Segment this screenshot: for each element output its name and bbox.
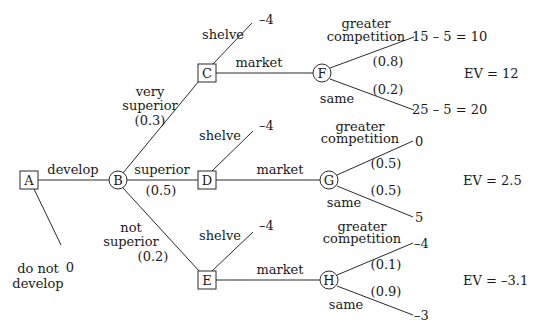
node-b: B xyxy=(109,171,127,189)
payoff-h-same: –3 xyxy=(414,308,429,323)
prob-very-superior: (0.3) xyxy=(135,113,166,128)
node-e-label: E xyxy=(202,273,212,288)
node-d: D xyxy=(198,171,216,189)
label-h-greater-2: competition xyxy=(323,231,402,246)
node-c: C xyxy=(198,64,216,82)
label-g-same: same xyxy=(327,195,362,210)
prob-f-greater: (0.8) xyxy=(373,54,404,69)
label-f-greater-2: competition xyxy=(327,29,406,44)
node-a: A xyxy=(20,171,38,189)
node-a-label: A xyxy=(23,173,34,188)
payoff-g-same: 5 xyxy=(415,210,423,225)
decision-tree-diagram: A B C D E F G H develop do not develop 0… xyxy=(0,0,533,336)
label-develop: develop xyxy=(47,162,98,177)
prob-g-same: (0.5) xyxy=(371,183,402,198)
node-e: E xyxy=(198,271,216,289)
prob-f-same: (0.2) xyxy=(373,82,404,97)
node-d-label: D xyxy=(202,173,212,188)
label-not-superior-1: not xyxy=(120,220,142,235)
edge-do-not-develop xyxy=(34,189,61,245)
ev-e: EV = –3.1 xyxy=(463,273,528,288)
node-h-label: H xyxy=(323,273,334,288)
node-g: G xyxy=(320,171,338,189)
label-c-shelve: shelve xyxy=(202,27,244,42)
label-very-superior-2: superior xyxy=(122,98,178,113)
prob-h-same: (0.9) xyxy=(371,284,402,299)
node-b-label: B xyxy=(113,173,123,188)
label-e-market: market xyxy=(256,262,304,277)
label-superior: superior xyxy=(134,162,190,177)
label-d-shelve: shelve xyxy=(199,128,241,143)
payoff-f-greater: 15 – 5 = 10 xyxy=(412,29,487,44)
label-do-not-develop-1: do not xyxy=(17,261,59,276)
node-f: F xyxy=(313,64,331,82)
ev-c: EV = 12 xyxy=(464,66,519,81)
label-f-same: same xyxy=(320,91,355,106)
label-g-greater-2: competition xyxy=(321,131,400,146)
prob-not-superior: (0.2) xyxy=(138,249,169,264)
label-d-market: market xyxy=(256,162,304,177)
prob-h-greater: (0.1) xyxy=(371,257,402,272)
prob-g-greater: (0.5) xyxy=(371,156,402,171)
payoff-c-shelve: –4 xyxy=(259,12,274,27)
payoff-do-not-develop: 0 xyxy=(66,260,74,275)
payoff-g-greater: 0 xyxy=(415,134,423,149)
payoff-f-same: 25 – 5 = 20 xyxy=(412,102,487,117)
label-h-same: same xyxy=(329,297,364,312)
node-c-label: C xyxy=(202,66,212,81)
node-f-label: F xyxy=(317,66,326,81)
ev-d: EV = 2.5 xyxy=(463,173,522,188)
label-c-market: market xyxy=(235,55,283,70)
label-do-not-develop-2: develop xyxy=(12,276,63,291)
payoff-h-greater: –4 xyxy=(414,236,429,251)
payoff-d-shelve: –4 xyxy=(259,118,274,133)
node-g-label: G xyxy=(324,173,334,188)
label-very-superior-1: very xyxy=(135,84,165,99)
label-e-shelve: shelve xyxy=(199,228,241,243)
prob-superior: (0.5) xyxy=(146,183,177,198)
node-h: H xyxy=(320,271,338,289)
label-not-superior-2: superior xyxy=(103,234,159,249)
payoff-e-shelve: –4 xyxy=(259,218,274,233)
